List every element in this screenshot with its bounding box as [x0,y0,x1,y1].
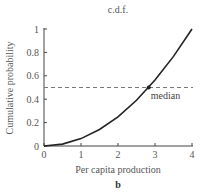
y-axis-label: Cumulative probability [4,41,15,134]
x-tick-label: 4 [190,149,195,160]
panel-label: b [115,179,121,190]
x-tick-label: 0 [42,149,47,160]
y-tick-label: 0 [34,141,39,152]
x-tick-label: 3 [153,149,158,160]
cdf-chart: c.d.f. Cumulative probability 00.20.40.6… [0,0,200,193]
y-tick-label: 0.6 [27,70,40,81]
x-tick-label: 2 [116,149,121,160]
x-tick-label: 1 [79,149,84,160]
y-tick-label: 0.8 [27,47,40,58]
y-tick-label: 1 [34,24,39,35]
median-label: median [151,90,180,101]
y-tick-label: 0.2 [27,117,40,128]
y-tick-label: 0.4 [27,94,40,105]
chart-title: c.d.f. [108,4,128,15]
x-axis-label: Per capita production [75,164,161,175]
